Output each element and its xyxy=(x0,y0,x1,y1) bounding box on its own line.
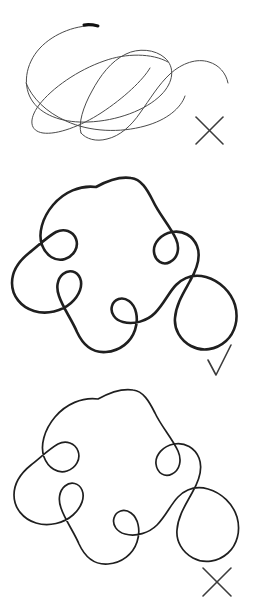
hand-drawn-figure xyxy=(0,0,268,615)
figure-canvas: ✕ ✓ ✕ Hand-drawn closed-curve sketches w… xyxy=(0,0,268,615)
pen-start-thick-mark xyxy=(84,25,98,26)
